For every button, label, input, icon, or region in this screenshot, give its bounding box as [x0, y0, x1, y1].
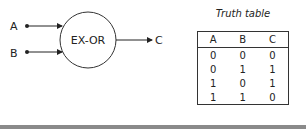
table-row: 0 0 0 [198, 48, 289, 63]
header-a: A [198, 32, 229, 48]
table-row: 1 0 1 [198, 76, 289, 90]
truth-table-title: Truth table [197, 8, 289, 19]
cell: 0 [257, 48, 288, 63]
cell: 0 [198, 48, 229, 63]
output-c-label: C [155, 34, 163, 47]
table-row: 0 1 1 [198, 62, 289, 76]
cell: 0 [257, 90, 288, 105]
input-a-label: A [10, 20, 18, 33]
table-row: 1 1 0 [198, 90, 289, 105]
cell: 1 [257, 62, 288, 76]
header-c: C [257, 32, 288, 48]
cell: 0 [198, 62, 229, 76]
gate-label: EX-OR [71, 34, 106, 47]
cell: 1 [198, 90, 229, 105]
cell: 1 [228, 62, 257, 76]
header-b: B [228, 32, 257, 48]
cell: 1 [228, 90, 257, 105]
input-b-label: B [10, 47, 18, 60]
cell: 0 [228, 76, 257, 90]
cell: 0 [228, 48, 257, 63]
table-header-row: A B C [198, 32, 289, 48]
exor-gate-diagram: A B EX-OR C [0, 0, 190, 90]
cell: 1 [257, 76, 288, 90]
truth-table: A B C 0 0 0 0 1 1 1 0 1 1 1 0 [197, 31, 289, 105]
bottom-divider [0, 125, 306, 129]
cell: 1 [198, 76, 229, 90]
